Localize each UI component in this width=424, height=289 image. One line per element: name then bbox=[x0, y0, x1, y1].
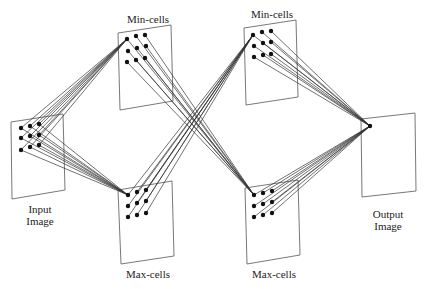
max2-cell-node bbox=[270, 211, 274, 215]
connection-line bbox=[254, 126, 370, 206]
connection-line bbox=[254, 126, 370, 195]
input-cell-node bbox=[37, 143, 41, 147]
max2-cell-node bbox=[270, 200, 274, 204]
min1-cell-node bbox=[134, 34, 138, 38]
input-cell-node bbox=[28, 145, 32, 149]
min1-cell-node bbox=[144, 44, 148, 48]
min2-cell-node bbox=[269, 29, 273, 33]
connection-line bbox=[39, 39, 127, 145]
max1-cell-node bbox=[135, 201, 139, 205]
min1-cell-node bbox=[135, 46, 139, 50]
connection-line bbox=[21, 39, 127, 150]
min2-cell-node bbox=[261, 53, 265, 57]
connection-line bbox=[145, 58, 254, 195]
max2-cell-node bbox=[252, 215, 256, 219]
connection-line bbox=[30, 39, 127, 147]
connection-line bbox=[127, 62, 254, 195]
input-cell-node bbox=[37, 122, 41, 126]
input-cell-node bbox=[28, 134, 32, 138]
min2-cell-node bbox=[261, 41, 265, 45]
max2-cell-node bbox=[270, 189, 274, 193]
connection-line bbox=[30, 39, 127, 136]
max1-cell-node bbox=[144, 188, 148, 192]
max1-cell-node bbox=[126, 204, 130, 208]
max1-cell-node bbox=[144, 199, 148, 203]
min1-cell-node bbox=[126, 49, 130, 53]
image-planes bbox=[11, 20, 416, 264]
min2-cell-node bbox=[269, 40, 273, 44]
max-min-network-diagram bbox=[0, 0, 424, 289]
max-cells-label-1: Max-cells bbox=[118, 268, 178, 280]
min1-cell-node bbox=[125, 60, 129, 64]
max1-cell-node bbox=[135, 190, 139, 194]
connection-line bbox=[263, 126, 370, 215]
max2-cell-node bbox=[261, 202, 265, 206]
max2-cell-node bbox=[261, 213, 265, 217]
max1-cell-node bbox=[135, 213, 139, 217]
connection-line bbox=[263, 126, 370, 204]
min2-cell-node bbox=[260, 30, 264, 34]
min1-cell-node bbox=[125, 37, 129, 41]
min2-cell-node bbox=[251, 33, 255, 37]
connection-line bbox=[272, 126, 370, 213]
connection-line bbox=[263, 126, 370, 193]
input-cell-node bbox=[37, 133, 41, 137]
input-cell-node bbox=[28, 124, 32, 128]
max2-cell-node bbox=[252, 193, 256, 197]
input-cell-node bbox=[19, 126, 23, 130]
connection-line bbox=[146, 46, 254, 195]
min-cells-label-2: Min-cells bbox=[242, 8, 302, 20]
min-cells-label-1: Min-cells bbox=[118, 13, 178, 25]
connection-line bbox=[21, 39, 127, 138]
connection-line bbox=[30, 39, 127, 126]
output-image-label: Output Image bbox=[366, 208, 410, 232]
min2-cell-node bbox=[269, 52, 273, 56]
max-cells-label-2: Max-cells bbox=[244, 268, 304, 280]
min1-cell-node bbox=[143, 56, 147, 60]
max1-cell-node bbox=[126, 193, 130, 197]
max1-cell-node bbox=[126, 215, 130, 219]
input-plane bbox=[11, 114, 65, 199]
connection-line bbox=[21, 39, 127, 128]
min1-cell-node bbox=[134, 58, 138, 62]
max1-cell-node bbox=[144, 211, 148, 215]
input-image-label: Input Image bbox=[20, 203, 60, 227]
min2-cell-node bbox=[252, 55, 256, 59]
max2-cell-node bbox=[252, 204, 256, 208]
output-cell-node bbox=[368, 124, 372, 128]
input-cell-node bbox=[19, 136, 23, 140]
input-cell-node bbox=[19, 148, 23, 152]
connection-lines bbox=[21, 31, 370, 217]
connection-line bbox=[136, 60, 254, 195]
max2-cell-node bbox=[261, 191, 265, 195]
min2-cell-node bbox=[252, 44, 256, 48]
min1-cell-node bbox=[143, 33, 147, 37]
